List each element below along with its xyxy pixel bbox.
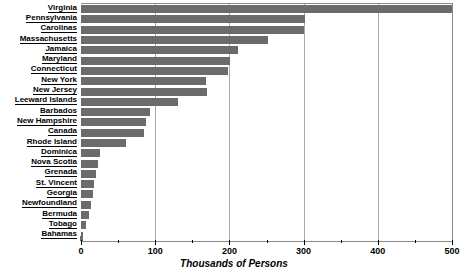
bar [81, 98, 178, 106]
bar-row [81, 66, 452, 76]
category-label-text: Tobago [49, 220, 77, 229]
bar-row [81, 169, 452, 179]
category-label-text: Rhode Island [27, 138, 77, 147]
category-label: Bahamas [0, 230, 79, 240]
bar-row [81, 158, 452, 168]
bar [81, 88, 207, 96]
bar [81, 118, 146, 126]
category-label: Bermuda [0, 209, 79, 219]
category-label-text: Leeward Islands [15, 96, 77, 105]
category-label: Barbados [0, 106, 79, 116]
axis-tick-label: 200 [222, 246, 237, 256]
bar [81, 160, 98, 168]
axis-tick-label: 300 [296, 246, 311, 256]
bar-row [81, 220, 452, 230]
category-label: St. Vincent [0, 178, 79, 188]
category-label-text: Virginia [48, 4, 77, 13]
category-label-text: Newfoundland [22, 199, 77, 208]
category-label-text: Carolinas [41, 24, 77, 33]
category-label-text: Nova Scotia [31, 158, 77, 167]
category-label-text: Bahamas [41, 230, 77, 239]
bar-row [81, 97, 452, 107]
bar-row [81, 138, 452, 148]
category-label-text: Georgia [47, 189, 77, 198]
category-label: Canada [0, 127, 79, 137]
bar-series [81, 4, 452, 241]
bar [81, 26, 304, 34]
axis-tick-minor [192, 240, 193, 243]
bar-row [81, 189, 452, 199]
category-label: New Hampshire [0, 116, 79, 126]
axis-tick-minor [267, 240, 268, 243]
axis-tick-major [229, 240, 230, 245]
bar-row [81, 45, 452, 55]
category-label: Carolinas [0, 24, 79, 34]
category-label: Connecticut [0, 65, 79, 75]
category-label-text: St. Vincent [36, 179, 77, 188]
bar-row [81, 35, 452, 45]
category-label: Tobago [0, 219, 79, 229]
bar [81, 5, 452, 13]
category-label: Nova Scotia [0, 157, 79, 167]
bar-row [81, 107, 452, 117]
bar [81, 170, 96, 178]
category-label: Pennsylvania [0, 13, 79, 23]
axis-tick-label: 400 [370, 246, 385, 256]
bar [81, 67, 228, 75]
bar [81, 77, 206, 85]
bar-row [81, 200, 452, 210]
axis-tick-major [155, 240, 156, 245]
category-label-text: Canada [48, 127, 77, 136]
category-label-text: Connecticut [31, 65, 77, 74]
category-axis: VirginiaPennsylvaniaCarolinasMassachuset… [0, 3, 79, 240]
bar [81, 46, 238, 54]
category-label-text: Pennsylvania [26, 14, 77, 23]
bar-row [81, 25, 452, 35]
category-label: Georgia [0, 188, 79, 198]
bar [81, 149, 100, 157]
axis-tick-minor [415, 240, 416, 243]
axis-tick-minor [341, 240, 342, 243]
axis-tick-major [378, 240, 379, 245]
axis-tick-label: 0 [78, 246, 83, 256]
bar [81, 108, 150, 116]
category-label: Virginia [0, 3, 79, 13]
bar [81, 36, 268, 44]
category-label: Maryland [0, 54, 79, 64]
category-label-text: Jamaica [45, 45, 77, 54]
axis-tick-major [452, 240, 453, 245]
category-label: Dominica [0, 147, 79, 157]
category-label: Jamaica [0, 44, 79, 54]
bar-row [81, 4, 452, 14]
category-label: Massachusetts [0, 34, 79, 44]
category-label-text: Dominica [41, 148, 77, 157]
bar [81, 190, 93, 198]
bar [81, 57, 230, 65]
bar-row [81, 86, 452, 96]
bar-row [81, 210, 452, 220]
category-label-text: Bermuda [42, 210, 77, 219]
bar-row [81, 128, 452, 138]
category-label: Newfoundland [0, 199, 79, 209]
bar-row [81, 117, 452, 127]
bar [81, 129, 144, 137]
category-label-text: New York [41, 76, 77, 85]
category-label: New York [0, 75, 79, 85]
category-label-text: Barbados [40, 107, 77, 116]
category-label: Leeward Islands [0, 96, 79, 106]
bar-row [81, 14, 452, 24]
bar [81, 221, 86, 229]
category-label: Rhode Island [0, 137, 79, 147]
bar [81, 180, 94, 188]
category-label-text: New Jersey [33, 86, 77, 95]
axis-tick-major [81, 240, 82, 245]
bar-chart: VirginiaPennsylvaniaCarolinasMassachuset… [0, 0, 468, 278]
bar [81, 211, 89, 219]
axis-tick-label: 500 [444, 246, 459, 256]
axis-tick-label: 100 [148, 246, 163, 256]
category-label-text: Grenada [45, 168, 77, 177]
category-label-text: Maryland [42, 55, 77, 64]
category-label-text: New Hampshire [17, 117, 77, 126]
category-label: Grenada [0, 168, 79, 178]
category-label-text: Massachusetts [20, 35, 77, 44]
